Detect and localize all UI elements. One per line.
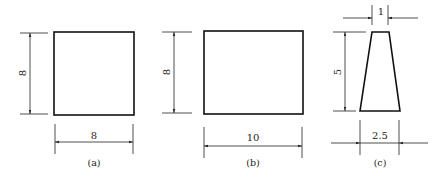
figure-a: 8 8 (a)	[17, 32, 134, 168]
height-label: 5	[332, 69, 343, 75]
width-label: 8	[91, 130, 97, 141]
top-width-label: 1	[378, 6, 384, 17]
figure-caption: (c)	[374, 157, 387, 168]
bottom-width-label: 2.5	[372, 130, 388, 141]
square-shape	[54, 32, 134, 115]
diagram-svg: 8 8 (a) 8 10 (b) 1 5	[0, 0, 444, 176]
figure-caption: (a)	[87, 157, 100, 168]
cross-section-diagrams: 8 8 (a) 8 10 (b) 1 5	[0, 0, 444, 176]
width-label: 10	[247, 132, 260, 143]
rectangle-shape	[204, 31, 303, 114]
figure-caption: (b)	[246, 157, 260, 168]
height-label: 8	[17, 70, 28, 76]
figure-b: 8 10 (b)	[161, 31, 303, 168]
figure-c: 1 5 2.5 (c)	[331, 5, 428, 168]
trapezoid-shape	[360, 32, 400, 111]
height-label: 8	[161, 69, 172, 75]
